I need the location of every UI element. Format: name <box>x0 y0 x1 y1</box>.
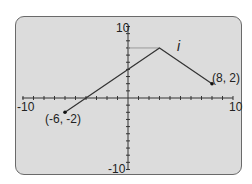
point-label-start: (-6, -2) <box>45 113 81 125</box>
x-max-label: 10 <box>229 101 242 113</box>
y-max-label: 10 <box>116 22 129 34</box>
function-name-label: i <box>177 40 180 52</box>
x-min-label: -10 <box>17 101 34 113</box>
function-line <box>65 48 212 112</box>
y-min-label: -10 <box>108 163 125 175</box>
point-label-end: (8, 2) <box>212 72 240 84</box>
